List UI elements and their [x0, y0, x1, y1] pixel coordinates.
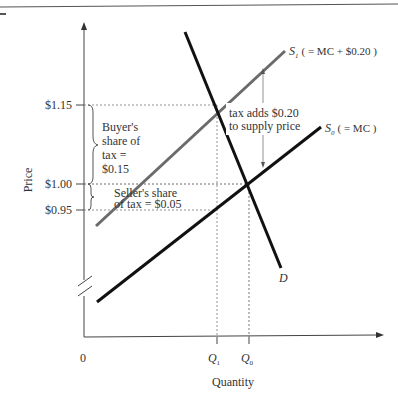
s0-label: S0( = MC )	[325, 121, 377, 137]
buyer-share-label: Buyer's	[102, 120, 138, 134]
s1-label: S1( = MC + $0.20 )	[289, 44, 377, 60]
seller-share-label: of tax = $0.05	[114, 197, 181, 211]
q1-tick-label: Q1	[208, 351, 221, 367]
x-axis-arrow-icon	[376, 332, 384, 338]
tax-label-line2: to supply price	[229, 119, 300, 133]
tax-arrow-down-icon	[261, 162, 265, 168]
buyer-share-brace	[88, 105, 98, 184]
buyer-share-label: $0.15	[102, 162, 129, 176]
seller-share-brace	[88, 184, 94, 210]
y-tick-label: $1.00	[45, 177, 72, 191]
tax-label-line1: tax adds $0.20	[229, 106, 299, 120]
buyer-share-label: tax =	[102, 148, 127, 162]
y-axis-label: Price	[21, 168, 35, 193]
demand-label: D	[278, 271, 288, 285]
origin-label: 0	[80, 351, 86, 365]
y-tick-label: $1.15	[45, 98, 72, 112]
q0-tick-label: Q0	[241, 351, 254, 367]
x-axis-label: Quantity	[212, 375, 254, 389]
buyer-share-label: share of	[102, 134, 140, 148]
top-rule	[0, 4, 398, 7]
y-tick-label: $0.95	[45, 203, 72, 217]
tax-incidence-chart: $1.15 $1.00 $0.95 Price tax adds $0.20 t…	[0, 0, 398, 408]
y-axis-arrow-icon	[81, 22, 87, 30]
x-axis	[84, 335, 377, 337]
